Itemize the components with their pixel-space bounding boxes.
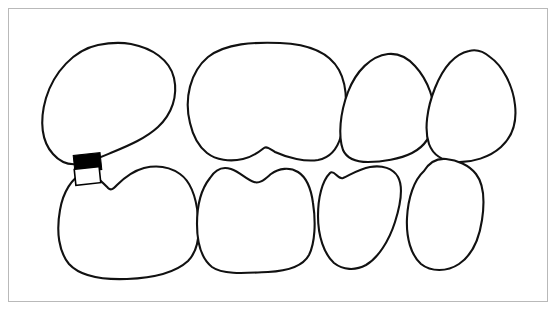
upper-tooth-4[interactable] — [427, 50, 516, 162]
upper-tooth-3[interactable] — [340, 54, 434, 162]
dental-diagram-canvas — [0, 0, 557, 310]
upper-tooth-2[interactable] — [188, 43, 346, 161]
lower-tooth-4[interactable] — [407, 159, 483, 270]
annotation-marker-outline[interactable] — [74, 167, 101, 186]
dental-diagram-figure: Dental arch line diagram Line drawing of… — [0, 0, 557, 310]
lower-tooth-2[interactable] — [197, 168, 315, 273]
upper-arch — [42, 43, 515, 164]
annotation-markers — [73, 153, 102, 186]
lower-tooth-3[interactable] — [318, 166, 401, 269]
lower-arch — [58, 159, 483, 279]
upper-tooth-1[interactable] — [42, 43, 175, 164]
